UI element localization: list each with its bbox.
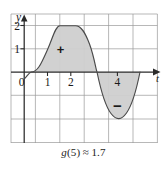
y-axis-arrow-icon bbox=[21, 15, 28, 22]
x-axis-label: t bbox=[156, 73, 160, 84]
figure-caption: g(5) ≈ 1.7 bbox=[0, 146, 167, 158]
x-tick-label-2: 2 bbox=[68, 76, 74, 88]
x-tick-label-1: 1 bbox=[45, 76, 51, 88]
y-tick-label-2: 2 bbox=[14, 20, 20, 32]
caption-relation: ≈ bbox=[83, 146, 89, 158]
caption-value: 1.7 bbox=[91, 146, 105, 158]
figure-container: y t 2 1 0 1 2 4 + − g(5) ≈ 1.7 bbox=[0, 0, 167, 171]
y-tick-label-1: 1 bbox=[14, 43, 20, 55]
x-tick-label-0: 0 bbox=[19, 76, 25, 88]
minus-sign-icon: − bbox=[113, 97, 122, 114]
plus-sign-icon: + bbox=[57, 42, 65, 57]
x-tick-label-4: 4 bbox=[115, 76, 121, 88]
caption-argument: (5) bbox=[67, 146, 80, 158]
